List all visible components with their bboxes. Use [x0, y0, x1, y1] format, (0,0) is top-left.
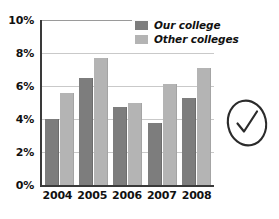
- bar-group: [45, 20, 74, 185]
- bar-chart: 0%2%4%6%8%10% 20042005200620072008 Our c…: [0, 0, 279, 219]
- legend-item-other-colleges: Other colleges: [135, 32, 239, 46]
- y-axis: 0%2%4%6%8%10%: [0, 0, 38, 219]
- y-axis-tick-label: 6%: [16, 80, 34, 93]
- bar: [163, 84, 177, 185]
- bar: [79, 78, 93, 185]
- bar: [45, 119, 59, 185]
- bar: [197, 68, 211, 185]
- y-axis-tick-label: 2%: [16, 146, 34, 159]
- chart-legend: Our college Other colleges: [132, 16, 242, 48]
- bar: [60, 93, 74, 185]
- circled-check-mark-icon: [224, 98, 270, 148]
- x-axis-tick-label: 2007: [147, 189, 177, 202]
- legend-swatch-our-college: [135, 21, 148, 30]
- y-axis-tick-label: 0%: [16, 179, 34, 192]
- bar: [148, 123, 162, 185]
- bar: [94, 58, 108, 185]
- bar: [113, 107, 127, 185]
- x-axis-tick-label: 2005: [77, 189, 107, 202]
- x-axis-tick-label: 2008: [182, 189, 212, 202]
- bar-group: [79, 20, 108, 185]
- y-axis-tick-label: 4%: [16, 113, 34, 126]
- y-axis-tick-label: 8%: [16, 47, 34, 60]
- legend-label-our-college: Our college: [154, 19, 221, 31]
- legend-swatch-other-colleges: [135, 35, 148, 44]
- bar: [182, 98, 196, 185]
- bar: [128, 103, 142, 186]
- legend-label-other-colleges: Other colleges: [154, 33, 239, 45]
- x-axis: 20042005200620072008: [40, 189, 214, 202]
- x-axis-tick-label: 2004: [42, 189, 72, 202]
- y-axis-tick-label: 10%: [8, 14, 34, 27]
- legend-item-our-college: Our college: [135, 18, 239, 32]
- x-axis-tick-label: 2006: [112, 189, 142, 202]
